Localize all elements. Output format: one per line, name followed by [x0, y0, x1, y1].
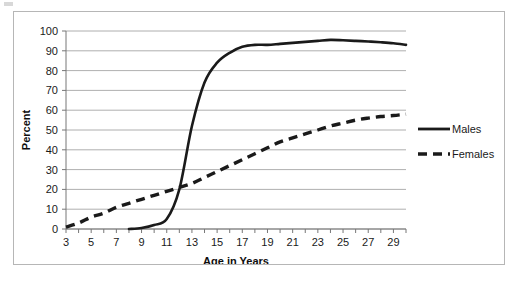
x-tick-label: 3: [63, 236, 69, 248]
x-tick-label: 29: [387, 236, 399, 248]
scan-artifact: [4, 2, 13, 6]
y-axis-title: Percent: [20, 109, 32, 150]
legend-label-females: Females: [452, 148, 495, 160]
x-tick-marks-group: [66, 229, 406, 233]
y-tick-label: 20: [46, 183, 58, 195]
gridlines-group: [66, 31, 406, 229]
y-tick-label: 100: [40, 25, 58, 37]
x-tick-label: 21: [287, 236, 299, 248]
x-tick-label: 13: [186, 236, 198, 248]
x-tick-label: 11: [161, 236, 172, 248]
x-axis-tick-labels: 357911131517192123252729: [63, 236, 400, 248]
y-tick-label: 80: [46, 65, 58, 77]
y-tick-label: 90: [46, 45, 58, 57]
y-axis-tick-labels: 0102030405060708090100: [40, 25, 58, 235]
y-tick-marks-group: [62, 31, 66, 229]
series-line-females: [66, 114, 406, 227]
y-tick-label: 10: [46, 203, 58, 215]
line-chart: 0102030405060708090100 35791113151719212…: [14, 12, 504, 264]
x-tick-label: 23: [312, 236, 324, 248]
data-series-group: [66, 40, 406, 229]
x-axis-title: Age in Years: [203, 255, 269, 264]
x-tick-label: 27: [362, 236, 374, 248]
y-tick-label: 50: [46, 124, 58, 136]
y-tick-label: 60: [46, 104, 58, 116]
x-tick-label: 5: [88, 236, 94, 248]
y-tick-label: 0: [52, 223, 58, 235]
y-tick-label: 70: [46, 84, 58, 96]
x-tick-label: 25: [337, 236, 349, 248]
legend-label-males: Males: [452, 123, 482, 135]
chart-frame: 0102030405060708090100 35791113151719212…: [13, 11, 505, 265]
y-tick-label: 30: [46, 164, 58, 176]
figure-container: 0102030405060708090100 35791113151719212…: [0, 0, 519, 281]
x-tick-label: 15: [211, 236, 223, 248]
x-tick-label: 19: [261, 236, 273, 248]
x-tick-label: 7: [113, 236, 119, 248]
x-tick-label: 17: [236, 236, 248, 248]
y-tick-label: 40: [46, 144, 58, 156]
chart-legend: MalesFemales: [418, 123, 495, 160]
series-line-males: [129, 40, 406, 229]
x-tick-label: 9: [138, 236, 144, 248]
